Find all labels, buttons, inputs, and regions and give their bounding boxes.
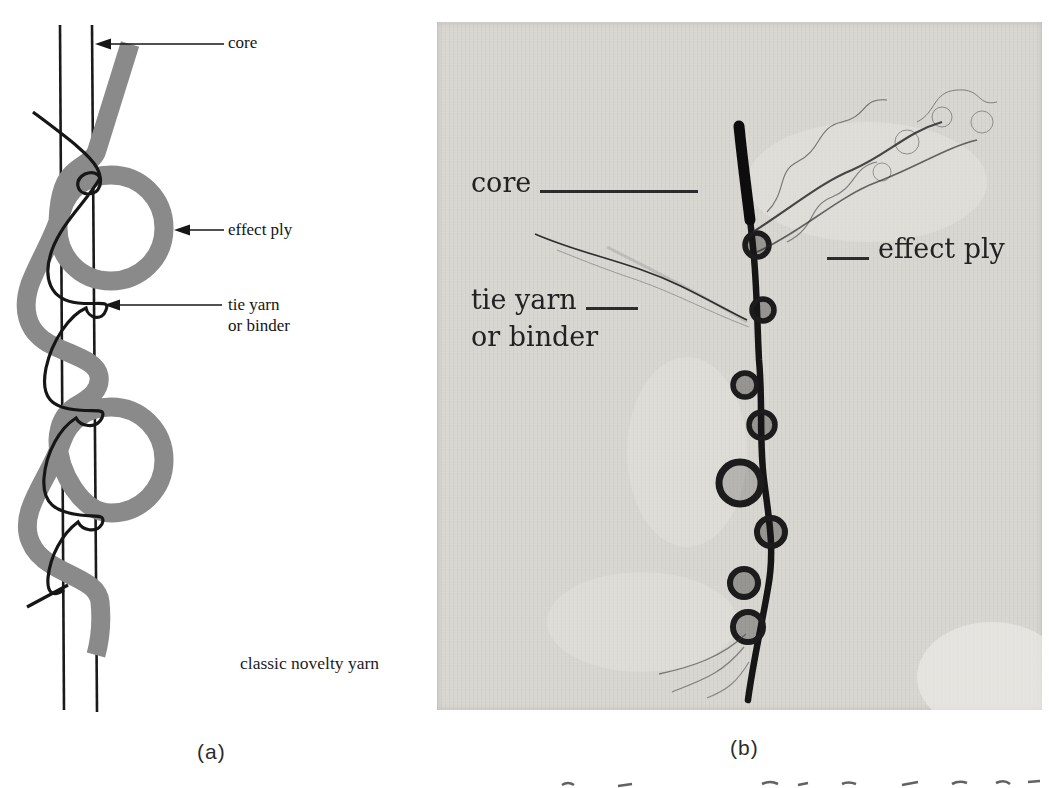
core-arrow-head (95, 39, 111, 50)
figure-page: core effect ply tie yarn or binder class… (0, 0, 1049, 788)
yarn-photo-drawing (437, 22, 1042, 710)
photo-effect-ply-label: effect ply (827, 234, 1005, 264)
diagram-effect-ply-label: effect ply (228, 219, 292, 240)
core-line-left (60, 25, 64, 710)
panel-a-caption: (a) (197, 740, 226, 764)
diagram-tie-yarn-line1: tie yarn (228, 294, 290, 315)
photo-effect-ply-pointer-line (827, 257, 869, 260)
photo-tie-yarn-label: tie yarn (471, 285, 638, 315)
photo-tie-yarn-pointer-line (586, 307, 638, 310)
yarn-strand-thick-top (739, 126, 750, 220)
photo-effect-ply-label-text: effect ply (878, 234, 1005, 264)
photo-core-pointer-line (540, 190, 698, 193)
photo-tie-yarn-line1: tie yarn (471, 285, 577, 315)
yarn-photograph: core tie yarn or binder effect ply (437, 22, 1042, 710)
photo-tie-yarn-label-line2: or binder (471, 322, 598, 352)
diagram-tie-yarn-line2: or binder (228, 315, 290, 336)
diagram-core-label: core (228, 32, 257, 53)
photo-core-label-text: core (471, 168, 531, 198)
novelty-yarn-diagram (0, 0, 432, 722)
photo-light-patches (547, 122, 1042, 710)
diagram-tie-yarn-label: tie yarn or binder (228, 294, 290, 336)
photo-core-label: core (471, 168, 698, 198)
diagram-title: classic novelty yarn (240, 653, 379, 674)
photo-tie-yarn-line2: or binder (471, 322, 598, 352)
panel-b-caption: (b) (730, 736, 759, 760)
effect-ply-arrow-head (174, 225, 190, 236)
cropped-caption-fragments (550, 776, 1049, 788)
